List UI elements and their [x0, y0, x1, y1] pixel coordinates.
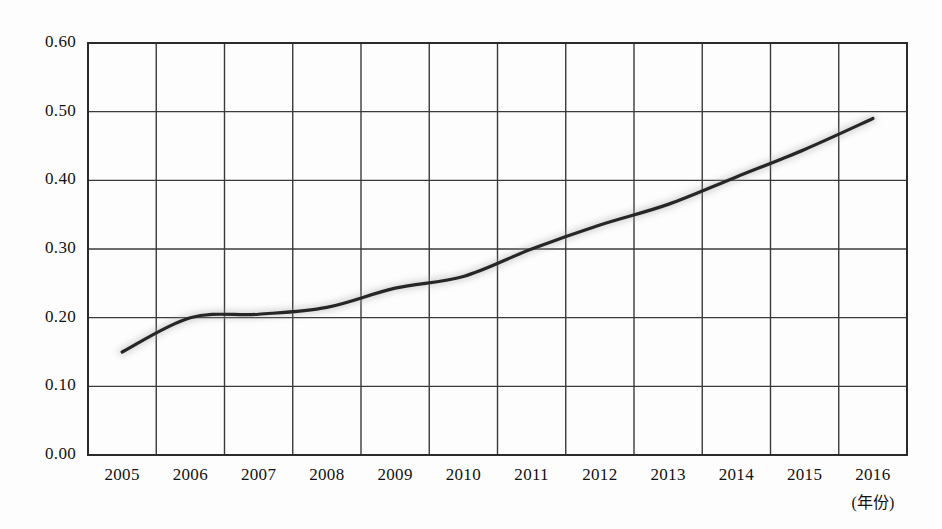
line-chart-plot	[0, 0, 942, 529]
y-axis-tick-label: 0.40	[14, 169, 76, 189]
x-axis-tick-label: 2010	[433, 465, 493, 485]
x-axis-tick-label: 2015	[775, 465, 835, 485]
y-axis-tick-label: 0.60	[14, 32, 76, 52]
y-axis-tick-label: 0.30	[14, 238, 76, 258]
y-axis-tick-label: 0.50	[14, 101, 76, 121]
y-axis-tick-label: 0.00	[14, 444, 76, 464]
x-axis-tick-label: 2005	[92, 465, 152, 485]
x-axis-tick-label: 2012	[570, 465, 630, 485]
y-axis-tick-label: 0.10	[14, 375, 76, 395]
grid-lines	[88, 43, 907, 455]
x-axis-tick-label: 2006	[160, 465, 220, 485]
x-axis-unit-label: (年份)	[838, 489, 908, 513]
y-axis-tick-label: 0.20	[14, 307, 76, 327]
x-axis-tick-label: 2014	[706, 465, 766, 485]
x-axis-tick-label: 2009	[365, 465, 425, 485]
x-axis-tick-label: 2011	[502, 465, 562, 485]
chart-container: 0.000.100.200.300.400.500.60 20052006200…	[0, 0, 942, 529]
x-axis-tick-label: 2007	[229, 465, 289, 485]
x-axis-tick-label: 2008	[297, 465, 357, 485]
x-axis-tick-label: 2016	[843, 465, 903, 485]
x-axis-tick-label: 2013	[638, 465, 698, 485]
